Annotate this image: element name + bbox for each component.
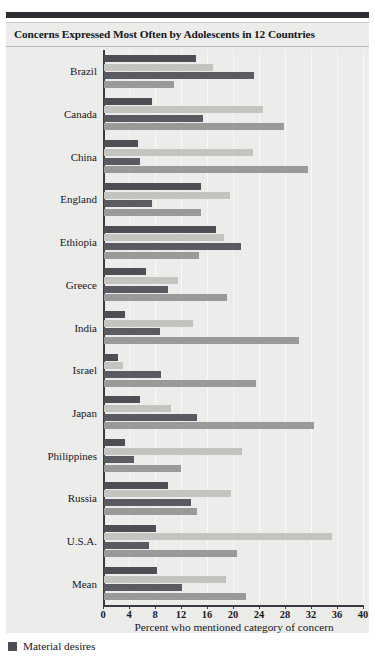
- bar: [104, 106, 263, 113]
- x-axis-tick-label: 8: [152, 609, 157, 620]
- bar: [104, 234, 224, 241]
- bar: [104, 98, 152, 105]
- plot-area: 0481216202428323640BrazilCanadaChinaEngl…: [0, 0, 375, 659]
- bar: [104, 294, 227, 301]
- bar: [104, 226, 216, 233]
- bar: [104, 414, 197, 421]
- bar: [104, 371, 161, 378]
- category-label-ethiopia: Ethiopia: [0, 236, 97, 248]
- bar: [104, 277, 178, 284]
- category-label-russia: Russia: [0, 492, 97, 504]
- grid-line: [363, 50, 364, 606]
- x-axis-tick-label: 20: [228, 609, 239, 620]
- bar: [104, 158, 140, 165]
- bar: [104, 456, 134, 463]
- bar: [104, 192, 230, 199]
- bar: [104, 482, 168, 489]
- bar: [104, 550, 237, 557]
- bar: [104, 499, 191, 506]
- x-axis-tick-label: 0: [100, 609, 105, 620]
- grid-line: [259, 50, 260, 606]
- grid-line: [207, 50, 208, 606]
- bar: [104, 320, 193, 327]
- bar: [104, 149, 253, 156]
- bar: [104, 490, 231, 497]
- category-label-philippines: Philippines: [0, 450, 97, 462]
- bar: [104, 465, 181, 472]
- bar: [104, 140, 138, 147]
- bar: [104, 567, 157, 574]
- category-label-india: India: [0, 322, 97, 334]
- bar: [104, 328, 160, 335]
- category-label-u-s-a: U.S.A.: [0, 535, 97, 547]
- x-axis-tick-label: 16: [202, 609, 213, 620]
- grid-line: [181, 50, 182, 606]
- bar: [104, 209, 201, 216]
- grid-line: [311, 50, 312, 606]
- bar: [104, 354, 118, 361]
- grid-line: [337, 50, 338, 606]
- grid-line: [285, 50, 286, 606]
- bar: [104, 268, 146, 275]
- x-axis-tick-label: 28: [280, 609, 291, 620]
- bar: [104, 311, 125, 318]
- x-axis-label: Percent who mentioned category of concer…: [103, 621, 365, 633]
- grid-line: [233, 50, 234, 606]
- chart-legend: Material desires: [8, 640, 95, 652]
- x-axis-tick-label: 4: [126, 609, 131, 620]
- bar: [104, 55, 196, 62]
- bar: [104, 183, 201, 190]
- bar: [104, 422, 314, 429]
- bar: [104, 252, 199, 259]
- bar: [104, 533, 332, 540]
- bar: [104, 362, 123, 369]
- x-axis-tick-label: 36: [332, 609, 343, 620]
- bar: [104, 337, 299, 344]
- category-label-greece: Greece: [0, 279, 97, 291]
- bar: [104, 166, 308, 173]
- bar: [104, 64, 213, 71]
- legend-swatch-material-desires: [8, 642, 17, 651]
- bar: [104, 243, 241, 250]
- bar: [104, 593, 246, 600]
- bar: [104, 439, 125, 446]
- category-label-brazil: Brazil: [0, 65, 97, 77]
- x-axis-tick-label: 24: [254, 609, 265, 620]
- bar: [104, 72, 254, 79]
- x-axis-tick-label: 12: [176, 609, 187, 620]
- category-label-canada: Canada: [0, 108, 97, 120]
- bar: [104, 508, 197, 515]
- bar: [104, 405, 171, 412]
- category-label-mean: Mean: [0, 578, 97, 590]
- bar: [104, 525, 156, 532]
- bar: [104, 81, 174, 88]
- chart-figure: Concerns Expressed Most Often by Adolesc…: [0, 0, 375, 659]
- bar: [104, 200, 152, 207]
- bar: [104, 115, 203, 122]
- bar: [104, 123, 284, 130]
- bar: [104, 396, 140, 403]
- bar: [104, 286, 168, 293]
- x-axis-tick-label: 32: [306, 609, 317, 620]
- legend-label-material-desires: Material desires: [23, 640, 95, 652]
- category-label-china: China: [0, 151, 97, 163]
- category-label-england: England: [0, 193, 97, 205]
- bar: [104, 542, 149, 549]
- bar: [104, 584, 182, 591]
- category-label-japan: Japan: [0, 407, 97, 419]
- bar: [104, 576, 226, 583]
- bar: [104, 380, 256, 387]
- category-label-israel: Israel: [0, 364, 97, 376]
- bar: [104, 448, 242, 455]
- x-axis-tick-label: 40: [358, 609, 369, 620]
